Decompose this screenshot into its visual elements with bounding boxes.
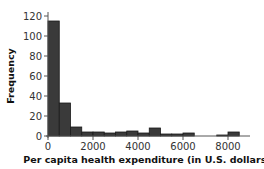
histogram-bar [149,128,160,136]
x-axis-title: Per capita health expenditure (in U.S. d… [23,154,264,165]
y-tick-label: 0 [36,131,42,142]
y-tick-label: 60 [29,71,42,82]
histogram-bar [59,103,70,136]
x-axis-ticks: 02000400060008000 [45,136,241,152]
y-axis-ticks: 020406080100120 [23,11,48,142]
x-tick-label: 6000 [170,141,195,152]
histogram-bar [116,132,127,136]
histogram-bar [82,132,93,136]
histogram-bars [48,21,239,136]
y-tick-label: 100 [23,31,42,42]
histogram-bar [71,127,82,136]
histogram-bar [93,132,104,136]
x-tick-label: 0 [45,141,51,152]
x-tick-label: 8000 [215,141,240,152]
y-tick-label: 40 [29,91,42,102]
y-tick-label: 120 [23,11,42,22]
y-axis-title: Frequency [5,47,16,103]
histogram-bar [48,21,59,136]
histogram-bar [127,131,138,136]
histogram-chart: 020406080100120 02000400060008000 Per ca… [0,0,264,169]
y-tick-label: 20 [29,111,42,122]
y-tick-label: 80 [29,51,42,62]
x-tick-label: 2000 [80,141,105,152]
histogram-bar [228,132,239,136]
x-tick-label: 4000 [125,141,150,152]
